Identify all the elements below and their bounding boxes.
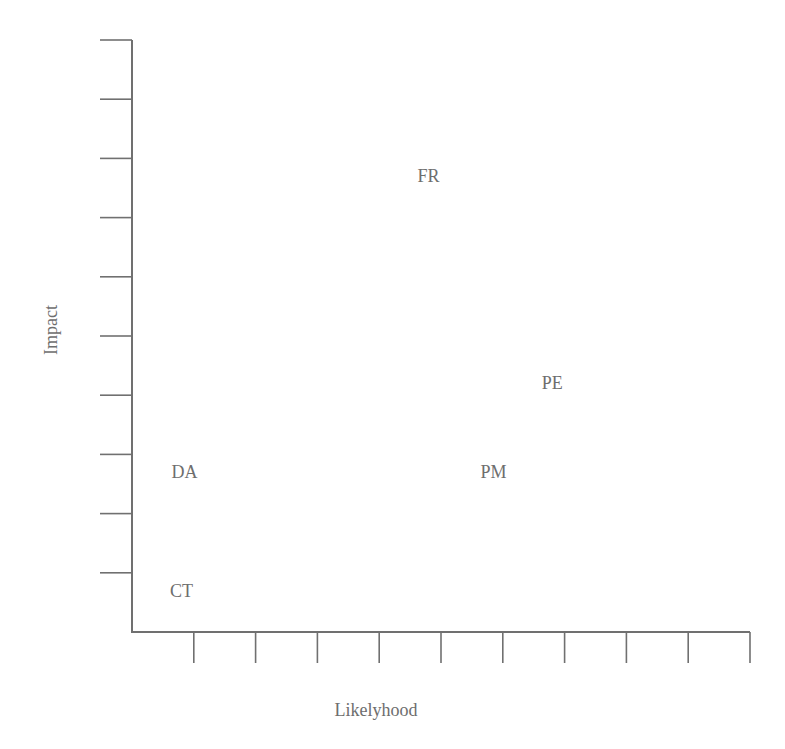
x-axis-ticks <box>194 632 750 663</box>
data-points: FRPEPMDACT <box>170 166 563 600</box>
y-axis-ticks <box>100 40 132 573</box>
risk-matrix-chart: FRPEPMDACT Likelyhood Impact <box>0 0 785 749</box>
axes <box>132 40 750 632</box>
y-axis-label: Impact <box>41 305 61 355</box>
point-label-fr: FR <box>418 166 440 186</box>
point-label-ct: CT <box>170 581 193 601</box>
x-axis-label: Likelyhood <box>335 700 418 720</box>
point-label-pe: PE <box>542 373 563 393</box>
point-label-da: DA <box>172 462 198 482</box>
point-label-pm: PM <box>481 462 507 482</box>
